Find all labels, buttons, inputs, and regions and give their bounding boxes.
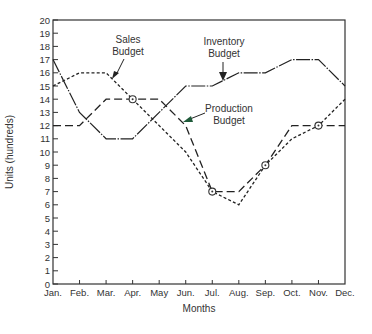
y-tick-label: 19: [39, 28, 50, 39]
x-tick-label: Aug.: [229, 287, 249, 298]
y-tick-label: 4: [45, 226, 50, 237]
x-axis-title: Months: [183, 303, 216, 314]
sales-annotation-line2: Budget: [112, 46, 144, 57]
y-tick-label: 9: [45, 160, 50, 171]
x-axis: Jan.Feb.Mar.Apr.MayJun.Jul.Aug.Sep.Oct.N…: [44, 280, 355, 298]
y-tick-label: 17: [39, 54, 50, 65]
x-tick-label: Jun.: [177, 287, 195, 298]
x-tick-label: Sep.: [256, 287, 276, 298]
x-tick-label: Oct.: [283, 287, 300, 298]
x-tick-label: Mar.: [97, 287, 115, 298]
sales-annotation-line1: Sales: [115, 34, 140, 45]
marker-dot: [317, 125, 319, 127]
y-tick-label: 7: [45, 186, 50, 197]
budget-line-chart: 01234567891011121314151617181920 Jan.Feb…: [0, 0, 372, 334]
y-axis: 01234567891011121314151617181920: [39, 15, 58, 290]
x-tick-label: Jan.: [44, 287, 62, 298]
y-tick-label: 15: [39, 81, 50, 92]
y-tick-label: 3: [45, 239, 50, 250]
y-tick-label: 14: [39, 94, 50, 105]
y-tick-label: 2: [45, 252, 50, 263]
sales-budget-line: [53, 73, 345, 205]
x-tick-label: Jul.: [205, 287, 220, 298]
production-annotation-line1: Production: [205, 103, 253, 114]
y-tick-label: 10: [39, 147, 50, 158]
y-tick-label: 5: [45, 213, 50, 224]
inventory-annotation-line1: Inventory: [203, 36, 244, 47]
x-tick-label: Apr.: [124, 287, 141, 298]
x-tick-label: May: [150, 287, 168, 298]
production-annotation-line2: Budget: [213, 115, 245, 126]
y-tick-label: 1: [45, 265, 50, 276]
marker-dot: [211, 191, 213, 193]
arrowhead-icon: [219, 72, 227, 81]
y-tick-label: 16: [39, 67, 50, 78]
y-tick-label: 6: [45, 199, 50, 210]
y-tick-label: 12: [39, 120, 50, 131]
y-tick-label: 20: [39, 15, 50, 26]
arrowhead-icon: [183, 116, 193, 122]
y-tick-label: 13: [39, 107, 50, 118]
inventory-budget-annotation: Inventory Budget: [203, 36, 244, 81]
inventory-annotation-line2: Budget: [208, 48, 240, 59]
marker-dot: [132, 98, 134, 100]
production-budget-annotation: Production Budget: [183, 103, 253, 126]
arrow-icon: [190, 113, 205, 119]
y-tick-label: 11: [40, 133, 50, 144]
production-budget-line: [53, 99, 345, 191]
sales-budget-annotation: Sales Budget: [112, 34, 144, 79]
inventory-budget-line: [53, 60, 345, 139]
y-tick-label: 18: [39, 41, 50, 52]
y-tick-label: 8: [45, 173, 50, 184]
marker-dot: [264, 164, 266, 166]
x-tick-label: Nov.: [309, 287, 328, 298]
x-tick-label: Feb.: [70, 287, 89, 298]
series-lines: [53, 60, 345, 205]
x-tick-label: Dec.: [335, 287, 355, 298]
y-axis-title: Units (hundreds): [4, 115, 15, 189]
